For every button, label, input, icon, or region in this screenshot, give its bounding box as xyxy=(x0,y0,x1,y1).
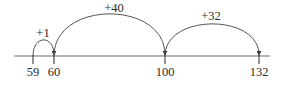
tick-group: 5960100132 xyxy=(27,55,269,79)
tick-label: 59 xyxy=(27,65,40,79)
jump-arc xyxy=(54,14,165,56)
tick-label: 100 xyxy=(156,65,175,79)
tick-label: 60 xyxy=(48,65,61,79)
number-line-diagram: 5960100132 +1+40+32 xyxy=(0,0,286,85)
jump-label: +1 xyxy=(36,26,49,40)
jump-label: +32 xyxy=(201,9,221,23)
tick-label: 132 xyxy=(250,65,269,79)
jump-label: +40 xyxy=(104,1,124,15)
jump-arc xyxy=(165,24,259,56)
jump-arcs-group: +1+40+32 xyxy=(33,1,259,56)
jump-arc xyxy=(33,40,54,56)
